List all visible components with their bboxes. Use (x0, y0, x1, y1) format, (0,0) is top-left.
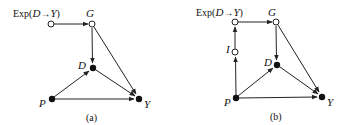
node-g (273, 19, 279, 25)
edge-p-to-y (239, 97, 317, 98)
label-p: P (223, 96, 231, 108)
node-d (90, 65, 96, 71)
edge-g-to-y (94, 27, 136, 94)
edge-g-to-d (276, 26, 277, 60)
edge-g-to-y (278, 25, 319, 92)
node-g (89, 21, 95, 27)
label-g: G (268, 6, 276, 18)
label-d: D (263, 56, 272, 68)
node-exp (48, 21, 54, 27)
node-d (274, 62, 280, 68)
edge-p-to-i (236, 57, 237, 95)
label-p: P (38, 97, 46, 109)
label-y: Y (327, 96, 335, 108)
caption-b: (b) (270, 111, 282, 123)
caption-a: (a) (86, 112, 97, 124)
node-p (233, 95, 239, 101)
label-i: I (225, 43, 231, 55)
edge-p-to-d (238, 68, 273, 96)
label-y: Y (144, 98, 152, 110)
node-p (49, 96, 55, 102)
node-i (232, 49, 238, 55)
node-y (136, 96, 142, 102)
panel-a: Exp(D→Y) G D P Y (a) (13, 7, 152, 124)
label-d: D (77, 59, 86, 71)
label-exp: Exp(D→Y) (13, 7, 60, 20)
node-y (319, 94, 325, 100)
edge-p-to-d (54, 71, 89, 97)
label-g: G (86, 7, 94, 19)
node-exp (232, 19, 238, 25)
edge-g-to-d (92, 28, 93, 63)
causal-diagrams: Exp(D→Y) G D P Y (a) Exp(D→Y) G I D P Y … (0, 0, 342, 125)
label-exp: Exp(D→Y) (196, 6, 243, 19)
panel-b: Exp(D→Y) G I D P Y (b) (196, 6, 335, 123)
